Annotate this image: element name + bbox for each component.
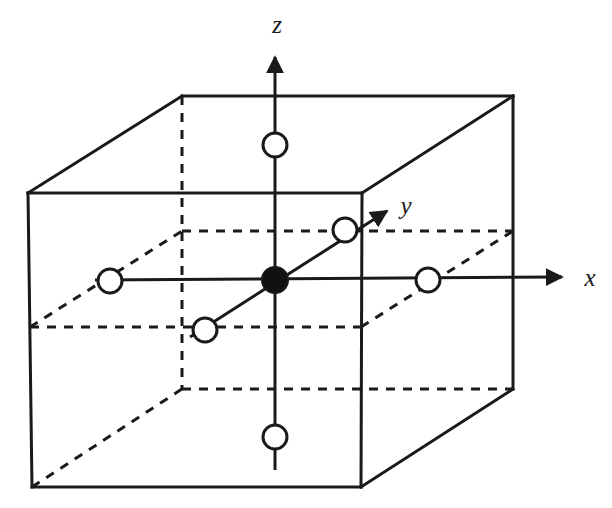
- edge-bottom-left-diagonal: [32, 389, 182, 487]
- edge-bottom-right-diagonal: [361, 389, 513, 487]
- axis-labels-group: z x y: [271, 11, 595, 291]
- edge-front-left-vertical: [28, 193, 32, 487]
- lattice-figure: z x y: [0, 0, 612, 508]
- atom-x-right: [416, 268, 440, 292]
- unit-cell-diagram: z x y: [0, 0, 612, 508]
- atom-z-bottom: [263, 425, 287, 449]
- axis-line-x: [95, 277, 562, 280]
- atom-y-near: [193, 318, 217, 342]
- atom-z-top: [263, 133, 287, 157]
- filled-atoms-group: [262, 267, 288, 293]
- edge-top-right-diagonal: [362, 96, 513, 193]
- edge-top-left-diagonal: [28, 96, 182, 193]
- axis-label-z: z: [271, 11, 282, 38]
- edge-front-right-vertical: [361, 193, 362, 487]
- axis-label-y: y: [397, 192, 412, 219]
- axes-group: [95, 57, 562, 470]
- atom-y-far: [333, 218, 357, 242]
- atom-x-left: [98, 269, 122, 293]
- axis-label-x: x: [583, 264, 595, 291]
- center-atom: [262, 267, 288, 293]
